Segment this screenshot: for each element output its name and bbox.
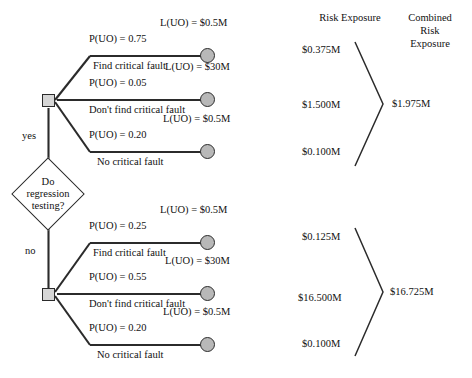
bracket-upper-combined: [355, 42, 383, 166]
upper-outcome-1-probability: P(UO) = 0.75: [89, 33, 147, 45]
terminal-node-lower-1[interactable]: [200, 235, 215, 250]
lower-outcome-1-loss: L(UO) = $0.5M: [160, 204, 227, 216]
decision-label-line-3: testing?: [14, 200, 82, 212]
upper-outcome-1-risk-exposure: $0.375M: [302, 44, 340, 56]
decision-tree-diagram: Risk Exposure Combined Risk Exposure Do …: [0, 0, 472, 378]
upper-outcome-3-loss: L(UO) = $0.5M: [163, 113, 230, 125]
decision-node-label: Do regression testing?: [14, 176, 82, 213]
terminal-node-upper-2[interactable]: [200, 92, 215, 107]
lower-outcome-3-risk-exposure: $0.100M: [302, 338, 340, 350]
combined-header-line-3: Exposure: [392, 38, 468, 51]
upper-outcome-3-probability: P(UO) = 0.20: [89, 129, 147, 141]
lower-outcome-2-risk-exposure: $16.500M: [298, 292, 341, 304]
edge-lower-no-fault: [55, 296, 90, 345]
upper-outcome-3-risk-exposure: $0.100M: [302, 146, 340, 158]
terminal-node-upper-3[interactable]: [200, 144, 215, 159]
lower-outcome-1-risk-exposure: $0.125M: [302, 231, 340, 243]
combined-header-line-1: Combined: [392, 12, 468, 25]
chance-node-no[interactable]: [42, 288, 55, 301]
lower-outcome-3-probability: P(UO) = 0.20: [89, 322, 147, 334]
lower-outcome-3-loss: L(UO) = $0.5M: [163, 306, 230, 318]
lower-outcome-3-description: No critical fault: [97, 349, 163, 361]
lower-combined-risk-exposure: $16.725M: [390, 286, 433, 298]
terminal-node-lower-2[interactable]: [200, 286, 215, 301]
chance-node-yes[interactable]: [42, 94, 55, 107]
upper-outcome-2-probability: P(UO) = 0.05: [89, 77, 147, 89]
lower-outcome-2-probability: P(UO) = 0.55: [89, 271, 147, 283]
upper-outcome-2-loss: L(UO) = $30M: [165, 61, 230, 73]
upper-outcome-2-risk-exposure: $1.500M: [302, 99, 340, 111]
lower-outcome-1-description: Find critical fault: [93, 247, 166, 259]
combined-header-line-2: Risk: [392, 25, 468, 38]
decision-label-line-1: Do: [14, 176, 82, 188]
terminal-node-lower-3[interactable]: [200, 337, 215, 352]
decision-label-line-2: regression: [14, 188, 82, 200]
edge-lower-find-fault: [55, 243, 90, 292]
upper-combined-risk-exposure: $1.975M: [392, 98, 430, 110]
edge-upper-no-fault: [55, 102, 90, 152]
combined-risk-exposure-header: Combined Risk Exposure: [392, 12, 468, 50]
branch-label-yes: yes: [22, 130, 36, 142]
lower-outcome-1-probability: P(UO) = 0.25: [89, 220, 147, 232]
branch-label-no: no: [25, 245, 36, 257]
upper-outcome-3-description: No critical fault: [97, 156, 163, 168]
upper-outcome-1-description: Find critical fault: [93, 60, 166, 72]
upper-outcome-1-loss: L(UO) = $0.5M: [160, 17, 227, 29]
bracket-lower-combined: [355, 228, 383, 356]
lower-outcome-2-loss: L(UO) = $30M: [165, 255, 230, 267]
edge-upper-find-fault: [55, 56, 90, 100]
risk-exposure-header: Risk Exposure: [302, 12, 398, 25]
